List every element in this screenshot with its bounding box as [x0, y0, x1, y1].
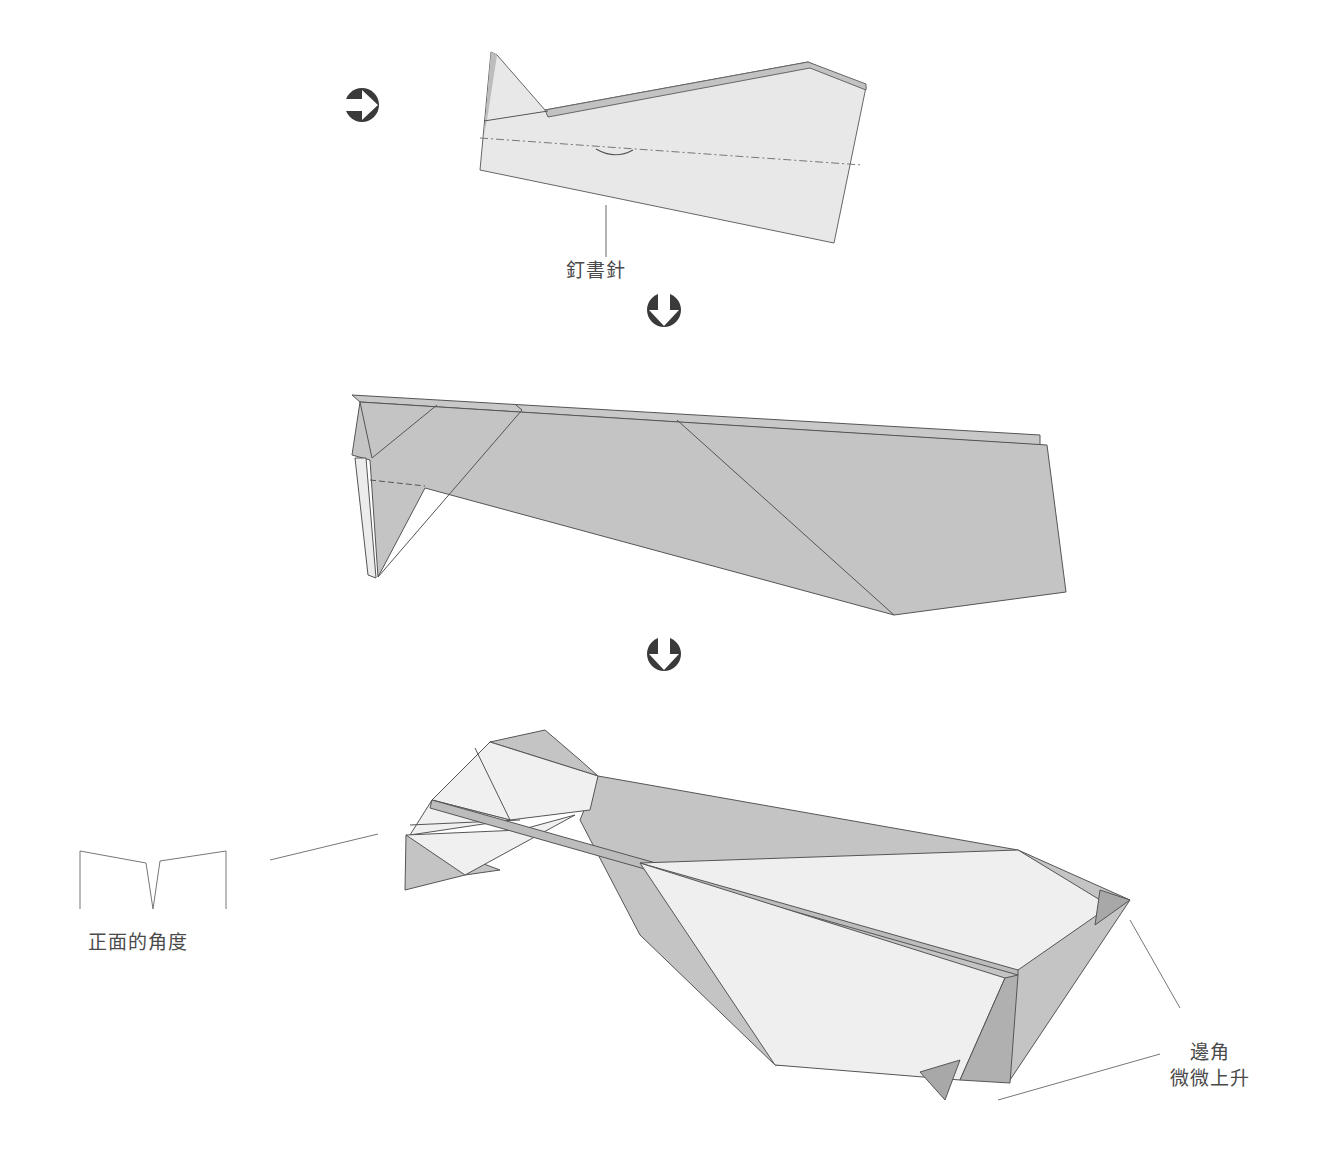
edge-rise-label-line2: 微微上升 — [1160, 1065, 1260, 1091]
front-angle-profile — [80, 851, 226, 909]
arrow-down-icon — [647, 637, 681, 671]
front-angle-callout-line — [270, 834, 378, 860]
step3-finished-airplane — [405, 730, 1130, 1100]
arrow-down-icon — [647, 293, 681, 327]
arrow-right-icon — [345, 88, 379, 122]
diagram-canvas — [0, 0, 1321, 1175]
edge-rise-label-line1: 邊角 — [1160, 1039, 1260, 1065]
front-angle-label: 正面的角度 — [88, 929, 188, 955]
step1-folded-plane — [480, 52, 866, 243]
edge-rise-label: 邊角 微微上升 — [1160, 1039, 1260, 1091]
staple-label: 釘書針 — [566, 257, 626, 283]
step2-folded-wing — [352, 395, 1066, 615]
